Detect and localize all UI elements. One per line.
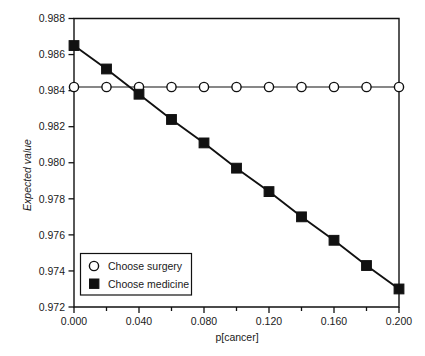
legend-marker-open-circle-icon (89, 261, 98, 270)
y-axis-tick-labels: 0.9720.9740.9760.9780.9800.9820.9840.986… (39, 12, 65, 313)
data-point-marker (362, 82, 371, 91)
data-point-marker (329, 82, 338, 91)
y-tick-label: 0.980 (39, 156, 65, 168)
data-point-marker (199, 138, 209, 148)
y-tick-label: 0.976 (39, 229, 65, 241)
data-point-marker (264, 187, 274, 197)
expected-value-vs-p-cancer-chart: 0.9720.9740.9760.9780.9800.9820.9840.986… (0, 0, 425, 356)
legend-label-medicine: Choose medicine (108, 278, 189, 290)
legend-label-surgery: Choose surgery (108, 260, 183, 272)
y-tick-label: 0.978 (39, 193, 65, 205)
x-tick-label: 0.040 (126, 315, 152, 327)
data-point-marker (394, 82, 403, 91)
x-tick-label: 0.000 (61, 315, 87, 327)
chart-legend: Choose surgery Choose medicine (81, 254, 192, 296)
data-point-marker (134, 89, 144, 99)
data-point-marker (232, 163, 242, 173)
x-tick-label: 0.120 (256, 315, 282, 327)
chart-figure: 0.9720.9740.9760.9780.9800.9820.9840.986… (0, 0, 425, 356)
data-point-marker (362, 261, 372, 271)
y-tick-label: 0.988 (39, 12, 65, 24)
data-point-marker (264, 82, 273, 91)
x-axis-label: p[cancer] (215, 331, 258, 343)
y-tick-label: 0.974 (39, 265, 65, 277)
data-point-marker (167, 115, 177, 125)
y-axis-label: Expected value (21, 139, 33, 211)
data-point-marker (167, 82, 176, 91)
y-tick-label: 0.984 (39, 84, 65, 96)
x-tick-label: 0.200 (386, 315, 412, 327)
x-tick-label: 0.080 (191, 315, 217, 327)
data-point-marker (329, 235, 339, 245)
data-point-marker (394, 284, 404, 294)
y-tick-label: 0.972 (39, 301, 65, 313)
y-tick-label: 0.986 (39, 48, 65, 60)
y-tick-label: 0.982 (39, 120, 65, 132)
data-point-marker (297, 82, 306, 91)
x-tick-label: 0.160 (321, 315, 347, 327)
data-point-marker (69, 41, 79, 51)
legend-marker-filled-square-icon (90, 279, 99, 288)
data-point-marker (199, 82, 208, 91)
data-point-marker (232, 82, 241, 91)
data-point-marker (102, 64, 112, 74)
data-point-marker (297, 212, 307, 222)
data-point-marker (102, 82, 111, 91)
data-point-marker (69, 82, 78, 91)
